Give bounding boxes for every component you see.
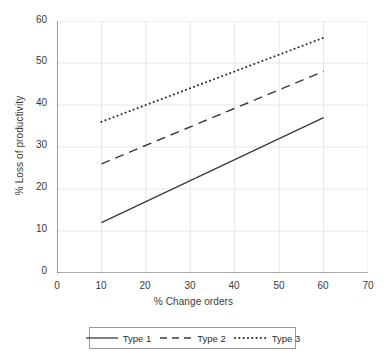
y-tick-label: 50 — [23, 55, 47, 66]
x-tick-label: 30 — [178, 280, 202, 291]
x-tick-label: 60 — [311, 280, 335, 291]
horizontal-gridlines — [57, 21, 368, 231]
x-tick-label: 10 — [89, 280, 113, 291]
x-tick-label: 70 — [356, 280, 380, 291]
x-tick-label: 0 — [45, 280, 69, 291]
x-tick-label: 40 — [222, 280, 246, 291]
legend-label: Type 2 — [197, 333, 226, 344]
series-line-type-2 — [101, 71, 323, 163]
legend-label: Type 3 — [272, 333, 301, 344]
x-tick-label: 20 — [133, 280, 157, 291]
x-tick-label: 50 — [267, 280, 291, 291]
series-line-type-1 — [101, 118, 323, 223]
legend-swatch-dotted-icon — [234, 334, 268, 342]
legend-item-type-3: Type 3 — [230, 333, 305, 344]
chart-legend: Type 1 Type 2 Type 3 — [89, 327, 296, 349]
legend-swatch-dashed-icon — [159, 334, 193, 342]
legend-label: Type 1 — [123, 333, 152, 344]
chart-canvas — [57, 21, 368, 273]
y-tick-label: 20 — [23, 181, 47, 192]
legend-item-type-1: Type 1 — [81, 333, 156, 344]
legend-swatch-solid-icon — [85, 334, 119, 342]
y-tick-label: 40 — [23, 97, 47, 108]
y-tick-label: 60 — [23, 14, 47, 25]
x-axis-title: % Change orders — [0, 296, 387, 307]
series-line-type-3 — [101, 38, 323, 122]
plot-area — [57, 21, 368, 273]
legend-item-type-2: Type 2 — [155, 333, 230, 344]
y-tick-label: 10 — [23, 223, 47, 234]
y-tick-label: 30 — [23, 139, 47, 150]
y-tick-label: 0 — [23, 265, 47, 276]
chart-figure: % Loss of productivity 0 10 20 30 40 50 … — [0, 0, 387, 356]
